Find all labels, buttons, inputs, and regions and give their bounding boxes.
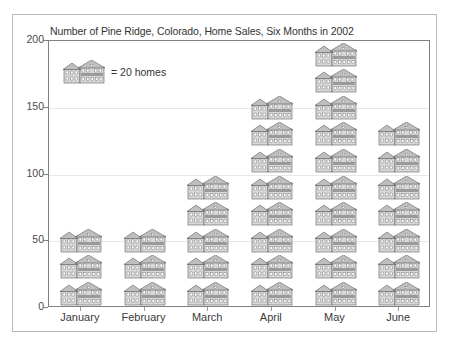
y-axis-tick-label: 200 (8, 33, 44, 45)
house-icon (378, 122, 420, 146)
house-icon (315, 122, 357, 146)
gridline (49, 108, 429, 109)
house-icon (124, 282, 166, 306)
house-icon (251, 229, 293, 253)
y-axis-tick-mark (43, 307, 48, 308)
gridline (49, 241, 429, 242)
y-axis-tick-label: 100 (8, 167, 44, 179)
house-icon (187, 255, 229, 279)
house-icon (378, 149, 420, 173)
house-icon (315, 229, 357, 253)
house-icon (251, 149, 293, 173)
x-axis-tick-mark (271, 307, 272, 311)
x-axis-tick-mark (398, 307, 399, 311)
house-icon (315, 202, 357, 226)
x-axis-tick-label-march: March (175, 311, 239, 323)
house-icon (315, 69, 357, 93)
y-axis-tick-label: 50 (8, 233, 44, 245)
house-icon (187, 282, 229, 306)
x-axis-tick-mark (207, 307, 208, 311)
x-axis-tick-label-june: June (366, 311, 430, 323)
x-axis-tick-label-january: January (48, 311, 112, 323)
x-axis-tick-mark (335, 307, 336, 311)
x-axis-tick-mark (144, 307, 145, 311)
house-icon (187, 202, 229, 226)
house-icon (251, 282, 293, 306)
house-icon (251, 255, 293, 279)
x-axis-tick-mark (80, 307, 81, 311)
house-icon (187, 176, 229, 200)
x-axis-tick-label-may: May (303, 311, 367, 323)
house-icon (315, 96, 357, 120)
house-icon (124, 229, 166, 253)
house-icon (315, 149, 357, 173)
house-icon (251, 202, 293, 226)
house-icon (315, 255, 357, 279)
legend: = 20 homes (63, 60, 166, 84)
house-icon (378, 176, 420, 200)
page-title: Number of Pine Ridge, Colorado, Home Sal… (50, 25, 354, 37)
house-icon (60, 255, 102, 279)
x-axis-tick-label-april: April (239, 311, 303, 323)
house-icon (251, 96, 293, 120)
house-icon (124, 255, 166, 279)
chart-screenshot: Number of Pine Ridge, Colorado, Home Sal… (0, 0, 449, 345)
house-icon (378, 255, 420, 279)
house-icon (251, 122, 293, 146)
y-axis-tick-label: 0 (8, 300, 44, 312)
house-icon (187, 229, 229, 253)
x-axis-tick-label-february: February (112, 311, 176, 323)
house-icon (378, 202, 420, 226)
gridline (49, 175, 429, 176)
house-icon (60, 229, 102, 253)
house-icon (315, 43, 357, 67)
house-icon (378, 229, 420, 253)
house-icon (60, 282, 102, 306)
house-icon (315, 176, 357, 200)
house-icon (251, 176, 293, 200)
house-icon (378, 282, 420, 306)
y-axis-tick-label: 150 (8, 100, 44, 112)
house-icon (315, 282, 357, 306)
house-icon (63, 60, 105, 84)
legend-label: = 20 homes (111, 66, 166, 78)
